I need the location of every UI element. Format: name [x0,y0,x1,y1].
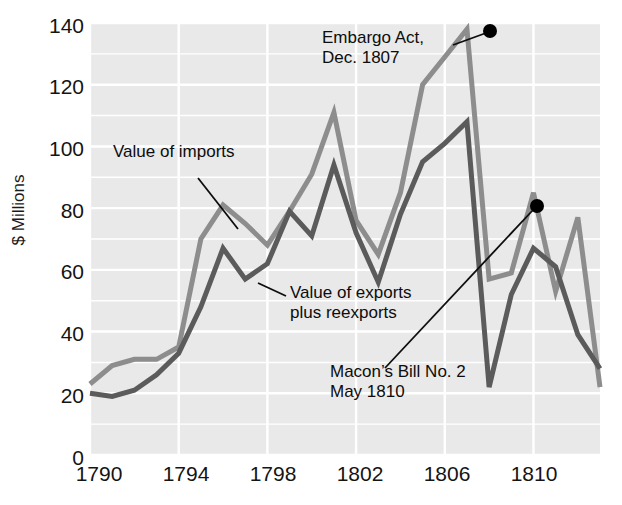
annotation-exports-line2: plus reexports [290,303,397,322]
annotation-markers [483,24,544,213]
annotation-exports-line1: Value of exports [290,283,412,302]
annotation-embargo-act: Embargo Act,Dec. 1807 [322,28,424,68]
annotation-embargo-line2: Dec. 1807 [322,48,400,67]
annotation-macon-line2: May 1810 [330,382,405,401]
chart-canvas [0,0,622,505]
annotation-value-of-exports: Value of exportsplus reexports [290,283,412,323]
chart-figure: $ Millions 140 120 100 80 60 40 20 0 179… [0,0,622,505]
leader-line-1 [258,283,286,296]
annotation-macon-line1: Macon’s Bill No. 2 [330,362,466,381]
event-marker-dot-3 [530,199,544,213]
leader-line-0 [198,178,238,229]
annotation-value-of-imports: Value of imports [113,142,235,162]
annotation-macons-bill: Macon’s Bill No. 2May 1810 [330,362,466,402]
event-marker-dot-2 [483,24,497,38]
annotation-embargo-line1: Embargo Act, [322,28,424,47]
annotation-imports-text: Value of imports [113,142,235,161]
